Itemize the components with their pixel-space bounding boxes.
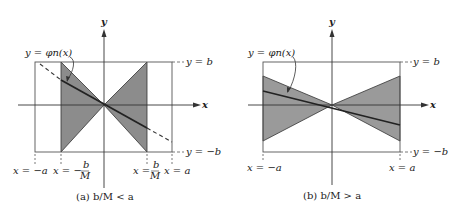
bottom-bound-label: y = −b bbox=[185, 146, 221, 157]
curve-dashed-left bbox=[40, 64, 61, 80]
x-axis-label: x bbox=[429, 99, 437, 110]
x-axis-arrow-icon bbox=[193, 103, 201, 108]
caption-a: (a) b/M < a bbox=[76, 191, 134, 202]
tick-label-neg-bM-num: b bbox=[83, 159, 89, 170]
x-axis-arrow-icon bbox=[421, 103, 429, 108]
shaded-region-left bbox=[61, 62, 104, 152]
tick-label-pos-a: x = a bbox=[164, 165, 190, 176]
tick-label-neg-a: x = −a bbox=[13, 165, 48, 176]
top-bound-label: y = b bbox=[185, 56, 213, 67]
tick-label-neg-a: x = −a bbox=[247, 162, 282, 173]
tick-label-bM-den: M bbox=[149, 170, 161, 181]
y-axis-label: y bbox=[100, 16, 108, 27]
top-bound-label: y = b bbox=[412, 56, 440, 67]
y-axis-arrow-icon bbox=[330, 29, 335, 37]
curve-label: y = φn(x) bbox=[24, 47, 72, 58]
panel-a: y x y = φn(x) y = b y = −b x = −a x = − … bbox=[13, 16, 221, 202]
y-axis-arrow-icon bbox=[102, 29, 107, 37]
curve-label: y = φn(x) bbox=[247, 47, 295, 58]
panel-b: y x y = φn(x) y = b y = −b x = −a x = a … bbox=[247, 16, 448, 201]
tick-label-neg-bM: x = − bbox=[53, 165, 82, 176]
tick-label-bM-num: b bbox=[153, 159, 159, 170]
tick-label-bM: x = bbox=[133, 165, 150, 176]
curve-dashed-right bbox=[147, 128, 172, 142]
tick-label-neg-bM-den: M bbox=[79, 170, 91, 181]
x-axis-label: x bbox=[201, 99, 209, 110]
caption-b: (b) b/M > a bbox=[303, 190, 361, 201]
tick-label-pos-a: x = a bbox=[389, 162, 415, 173]
figure-canvas: y x y = φn(x) y = b y = −b x = −a x = − … bbox=[0, 0, 458, 219]
bounding-rectangle bbox=[35, 62, 172, 152]
y-axis-label: y bbox=[328, 16, 336, 27]
bottom-bound-label: y = −b bbox=[412, 146, 448, 157]
shaded-region-right bbox=[332, 76, 400, 141]
shaded-region-left bbox=[263, 76, 332, 141]
